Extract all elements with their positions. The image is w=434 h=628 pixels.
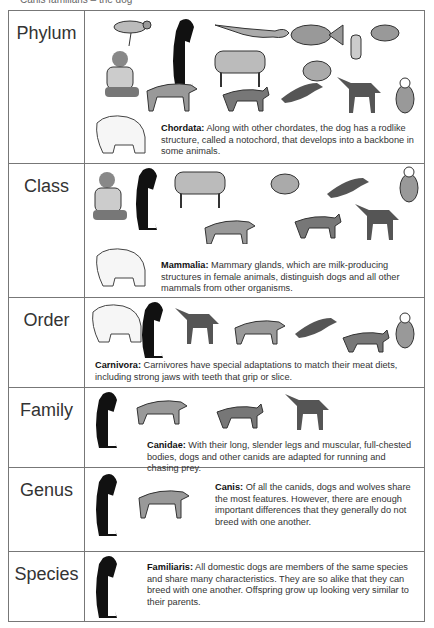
ferret-icon [281, 83, 323, 103]
wolf-icon [137, 401, 187, 424]
bird-icon [114, 21, 151, 46]
animals-illustration [85, 298, 424, 360]
wolf-icon [139, 491, 189, 518]
row-species: Species Familiaris: All domestic dogs ar… [9, 552, 424, 622]
row-content: Carnivora: Carnivores have special adapt… [85, 298, 424, 387]
top-text-fragment: Canis familiaris – the dog [20, 0, 132, 5]
maned-wolf-icon [175, 308, 219, 344]
wolf-icon [147, 84, 197, 111]
maned-wolf-icon [337, 77, 381, 113]
polar-bear-icon [93, 111, 149, 157]
row-description: Familiaris: All domestic dogs are member… [147, 562, 417, 608]
ferret-icon [327, 178, 369, 198]
polar-bear-icon [93, 244, 149, 294]
dog-icon [142, 302, 163, 358]
wolf-icon [205, 221, 255, 244]
dog-icon [173, 19, 194, 91]
boy-icon [105, 51, 139, 97]
rank-label: Genus [9, 468, 85, 551]
mouse-icon [271, 174, 299, 194]
ferret-icon [295, 318, 337, 338]
worm-icon [351, 35, 361, 59]
polar-bear-icon [93, 305, 141, 342]
maned-wolf-icon [285, 394, 329, 430]
dog-icon [96, 556, 117, 618]
cat-icon [400, 167, 418, 202]
row-description: Chordata: Along with other chordates, th… [161, 123, 416, 158]
row-content: Familiaris: All domestic dogs are member… [85, 552, 424, 621]
fox-icon [217, 404, 263, 428]
cow-icon [215, 51, 265, 87]
row-family: Family Canidae: With their long, slender… [9, 388, 424, 468]
row-description: Carnivora: Carnivores have special adapt… [95, 360, 415, 383]
fish-icon [291, 25, 343, 45]
rank-label: Class [9, 164, 85, 297]
dog-icon [136, 168, 157, 230]
row-content: Mammalia: Mammary glands, which are milk… [85, 164, 424, 297]
dog-icon [96, 474, 117, 536]
lizard-icon [215, 25, 289, 38]
classification-table: Phylum [8, 10, 425, 622]
row-class: Class Mammalia: Mammary glands, which ar… [9, 164, 424, 298]
boy-icon [93, 172, 127, 220]
cat-icon [396, 313, 414, 348]
rank-label: Species [9, 552, 85, 621]
dog-icon [96, 392, 117, 448]
mouse-icon [303, 61, 331, 81]
row-genus: Genus Canis: Of all the canids, dogs and… [9, 468, 424, 552]
row-order: Order Carnivora: Carnivores have special… [9, 298, 424, 388]
row-content: Canis: Of all the canids, dogs and wolve… [85, 468, 424, 551]
animals-illustration [85, 11, 424, 121]
wolf-icon [235, 321, 285, 344]
row-content: Chordata: Along with other chordates, th… [85, 11, 424, 163]
cow-icon [175, 172, 225, 208]
rank-label: Order [9, 298, 85, 387]
rank-label: Phylum [9, 11, 85, 163]
rank-label: Family [9, 388, 85, 467]
row-description: Canis: Of all the canids, dogs and wolve… [215, 482, 415, 528]
row-description: Mammalia: Mammary glands, which are milk… [161, 260, 419, 295]
row-content: Canidae: With their long, slender legs a… [85, 388, 424, 467]
fox-icon [223, 87, 269, 111]
fox-icon [343, 330, 389, 352]
cat-icon [396, 78, 414, 113]
maned-wolf-icon [355, 204, 399, 240]
fox-icon [295, 214, 341, 238]
animals-illustration [85, 164, 424, 244]
frog-icon [371, 25, 399, 41]
row-phylum: Phylum [9, 11, 424, 164]
